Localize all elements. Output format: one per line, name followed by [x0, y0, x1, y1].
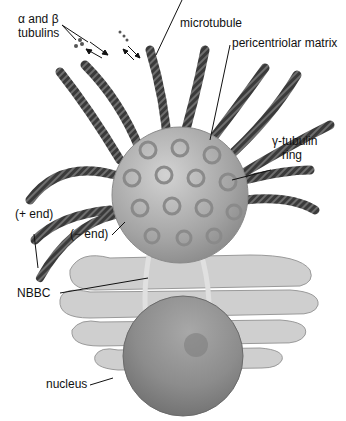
label-gamma-tubulin-line1: γ-tubulin — [272, 135, 317, 148]
label-tubulins-line2: tubulins — [18, 27, 59, 40]
label-nbbc: NBBC — [17, 287, 50, 300]
assembly-arrows — [86, 42, 140, 60]
label-gamma-tubulin-line2: ring — [282, 149, 302, 162]
centrosome — [112, 127, 248, 263]
label-pericentriolar-matrix: pericentriolar matrix — [232, 37, 337, 50]
label-nucleus: nucleus — [46, 378, 87, 391]
nucleolus — [184, 333, 208, 357]
label-plus-end: (+ end) — [15, 208, 53, 221]
free-tubulin-dots — [74, 31, 129, 49]
label-minus-end: (− end) — [70, 228, 108, 241]
label-tubulins-line1: α and β — [18, 13, 59, 26]
label-microtubule: microtubule — [180, 17, 242, 30]
nucleus — [123, 296, 243, 416]
